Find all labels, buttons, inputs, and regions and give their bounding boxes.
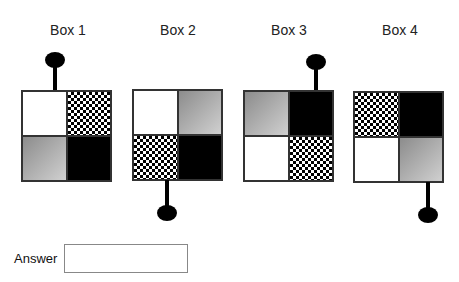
box-4-cell-top-left-checker <box>355 93 398 136</box>
box-1-cell-bottom-left-gray <box>23 137 66 180</box>
box-4-cell-bottom-right-gray <box>400 138 443 181</box>
box-4-handle-knob-icon <box>418 207 438 223</box>
box-2-title: Box 2 <box>133 22 223 38</box>
box-2-handle-knob-icon <box>157 205 177 221</box>
box-4-title: Box 4 <box>355 22 445 38</box>
box-1-handle-stick <box>53 64 57 92</box>
box-2-cell-top-right-gray <box>179 91 222 134</box>
box-4-cell-top-right-black <box>400 93 443 136</box>
box-1 <box>21 90 112 182</box>
box-2-cell-top-left-white <box>134 91 177 134</box>
box-2 <box>132 89 223 181</box>
box-3-title: Box 3 <box>244 22 334 38</box>
box-2-handle-stick <box>165 180 169 208</box>
box-4-handle-stick <box>426 182 430 210</box>
box-3-cell-bottom-left-white <box>245 137 288 180</box>
box-3-cell-top-right-black <box>290 92 333 135</box>
box-3 <box>243 90 334 182</box>
box-4 <box>353 91 444 183</box>
answer-input[interactable] <box>64 244 188 273</box>
box-4-cell-bottom-left-white <box>355 138 398 181</box>
box-1-title: Box 1 <box>23 22 113 38</box>
box-2-cell-bottom-left-checker <box>134 136 177 179</box>
box-2-cell-bottom-right-black <box>179 136 222 179</box>
box-3-handle-stick <box>314 66 318 92</box>
box-1-cell-top-right-checker <box>68 92 111 135</box>
box-1-cell-top-left-white <box>23 92 66 135</box>
box-1-cell-bottom-right-black <box>68 137 111 180</box>
answer-label: Answer <box>14 251 57 266</box>
box-3-cell-top-left-gray <box>245 92 288 135</box>
box-3-cell-bottom-right-checker <box>290 137 333 180</box>
